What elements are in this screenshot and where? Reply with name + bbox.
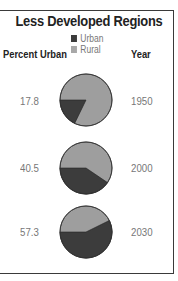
pie-1950 xyxy=(60,74,112,126)
pie-2000 xyxy=(60,142,112,194)
pie-2030 xyxy=(60,206,112,258)
pie-charts xyxy=(0,0,178,281)
